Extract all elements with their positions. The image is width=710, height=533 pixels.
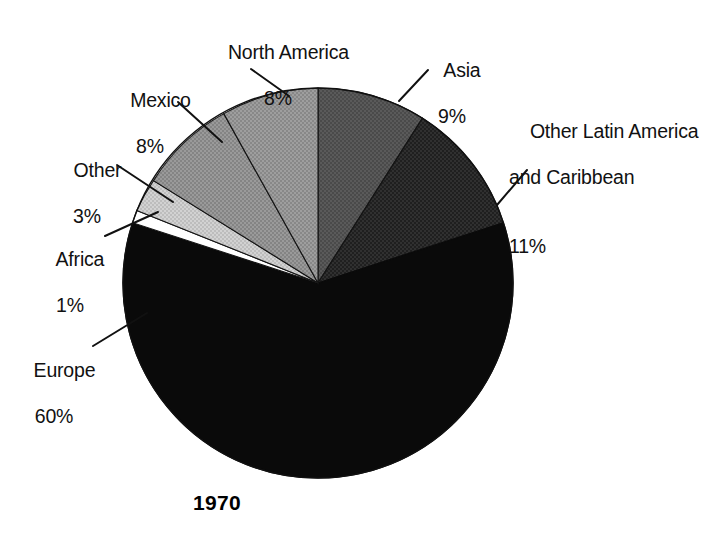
label-europe-name: Europe: [34, 359, 96, 381]
label-africa-name: Africa: [56, 248, 105, 270]
label-mexico-name: Mexico: [130, 89, 191, 111]
label-other-latin-line1: Other Latin America: [530, 120, 699, 142]
label-asia-name: Asia: [443, 59, 480, 81]
label-other-latin-pct: 11%: [509, 235, 709, 258]
label-other-name: Other: [74, 159, 122, 181]
label-north-america-pct: 8%: [203, 87, 353, 110]
chart-year-label: 1970: [193, 491, 241, 515]
label-europe: Europe 60%: [8, 336, 100, 474]
label-other-latin-line2: and Caribbean: [509, 166, 709, 189]
label-europe-pct: 60%: [8, 405, 100, 428]
label-asia: Asia 9%: [422, 36, 482, 174]
label-africa-pct: 1%: [30, 294, 110, 317]
pie-chart-figure: North America 8% Mexico 8% Other 3% Afri…: [0, 0, 710, 533]
label-north-america: North America 8%: [203, 18, 353, 156]
label-other-latin-america: Other Latin America and Caribbean 11%: [509, 97, 709, 304]
label-north-america-name: North America: [228, 41, 349, 63]
label-asia-pct: 9%: [422, 105, 482, 128]
